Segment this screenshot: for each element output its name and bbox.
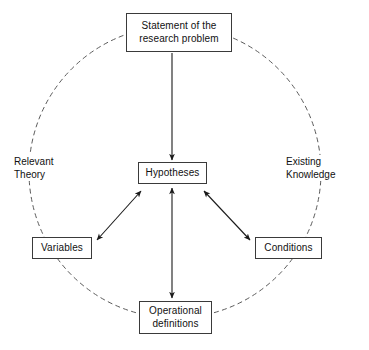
ring-label-relevant-theory: Relevant Theory <box>14 155 53 181</box>
ring-label-existing-knowledge: Existing Knowledge <box>286 155 335 181</box>
node-operational-line2: definitions <box>149 318 202 331</box>
arrow-hypotheses-conditions <box>204 191 250 240</box>
node-hypotheses-label: Hypotheses <box>146 167 200 180</box>
node-variables[interactable]: Variables <box>32 237 92 259</box>
node-variables-label: Variables <box>41 242 83 255</box>
node-operational-line1: Operational <box>149 305 202 316</box>
arrow-variables-hypotheses <box>97 191 141 240</box>
node-hypotheses[interactable]: Hypotheses <box>138 162 207 184</box>
node-operational-text: Operational definitions <box>149 305 202 330</box>
node-conditions[interactable]: Conditions <box>255 237 322 259</box>
node-statement-of-the-research-problem[interactable]: Statement of the research problem <box>126 13 232 52</box>
node-statement-text: Statement of the research problem <box>139 20 218 45</box>
ring-label-existing-line2: Knowledge <box>286 169 335 180</box>
node-statement-line1: Statement of the <box>142 20 217 31</box>
node-operational-definitions[interactable]: Operational definitions <box>139 301 212 334</box>
ring-label-relevant-line2: Theory <box>14 169 45 180</box>
node-conditions-label: Conditions <box>264 242 312 255</box>
node-statement-line2: research problem <box>139 33 218 46</box>
diagram-canvas: Statement of the research problem Hypoth… <box>0 0 369 350</box>
ring-label-relevant-line1: Relevant <box>14 156 53 167</box>
ring-label-existing-line1: Existing <box>286 156 321 167</box>
